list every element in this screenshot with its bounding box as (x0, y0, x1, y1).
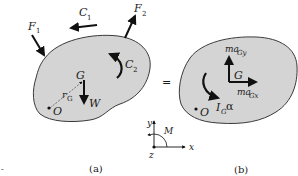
kinetic-diagram-b: ma Gy ma Gx G I G α O (179, 37, 297, 124)
c2-subscript: 2 (133, 66, 137, 74)
force-f2-arrow (125, 16, 135, 38)
ig-alpha-symbol: α (226, 100, 234, 113)
f2-label: F (133, 2, 142, 15)
f2-subscript: 2 (142, 10, 146, 18)
couple-c1-arrow (71, 25, 97, 28)
y-axis-label: y (146, 118, 153, 128)
caption-a: (a) (89, 163, 103, 174)
w-label: W (89, 97, 102, 110)
z-axis-label: z (148, 150, 154, 160)
f1-subscript: 1 (36, 27, 40, 35)
stray-mark: - (1, 165, 4, 174)
ma-gx-subscript: Gx (249, 92, 259, 100)
f1-label: F (27, 20, 36, 33)
rg-subscript: G (67, 95, 73, 103)
coordinate-axes: y x z M (146, 118, 194, 160)
o-label-b: O (200, 106, 209, 119)
x-axis-label: x (189, 142, 194, 152)
caption-b: (b) (234, 164, 248, 175)
point-o-b (194, 107, 197, 110)
origin-point (152, 145, 155, 148)
point-o-a (47, 106, 50, 109)
force-f1-arrow (32, 35, 44, 55)
kinetics-diagram: F 1 C 1 F 2 C 2 G W r G O (0, 0, 298, 176)
g-label-b: G (234, 69, 243, 82)
o-label-a: O (53, 105, 62, 118)
free-body-diagram-a: F 1 C 1 F 2 C 2 G W r G O (27, 2, 150, 122)
c1-subscript: 1 (87, 14, 91, 22)
equals-sign: = (162, 76, 171, 89)
ma-gy-subscript: Gy (237, 49, 248, 57)
m-label: M (163, 126, 174, 136)
